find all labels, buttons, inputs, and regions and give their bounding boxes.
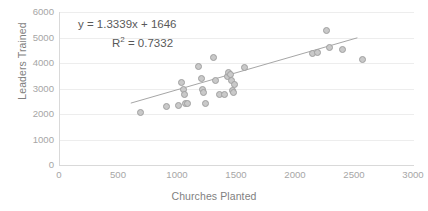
x-axis-tick-labels: 050010001500200025003000 — [0, 170, 428, 186]
data-point — [198, 75, 205, 82]
data-point — [241, 64, 248, 71]
data-point — [163, 103, 170, 110]
scatter-chart: Leaders Trained 010002000300040005000600… — [0, 0, 428, 211]
r-squared-label: R2 = 0.7332 — [72, 34, 252, 53]
regression-equation: y = 1.3339x + 1646 — [72, 16, 252, 34]
x-tick-label: 500 — [92, 170, 144, 180]
x-tick-label: 2000 — [269, 170, 321, 180]
y-tick-label: 3000 — [14, 84, 54, 94]
data-point — [230, 89, 237, 96]
data-point — [326, 44, 333, 51]
x-tick-label: 1500 — [210, 170, 262, 180]
data-point — [221, 91, 228, 98]
y-tick-label: 2000 — [14, 109, 54, 119]
data-point — [184, 100, 191, 107]
regression-annotation: y = 1.3339x + 1646 R2 = 0.7332 — [72, 16, 252, 52]
r-squared-value: = 0.7332 — [125, 37, 173, 49]
data-point — [175, 102, 182, 109]
x-tick-label: 2500 — [328, 170, 380, 180]
data-point — [195, 63, 202, 70]
y-tick-label: 0 — [14, 160, 54, 170]
y-tick-label: 1000 — [14, 135, 54, 145]
data-point — [359, 56, 366, 63]
x-tick-label: 3000 — [387, 170, 428, 180]
x-tick-label: 1000 — [151, 170, 203, 180]
data-point — [181, 91, 188, 98]
data-point — [212, 77, 219, 84]
data-point — [339, 46, 346, 53]
x-tick-label: 0 — [33, 170, 85, 180]
y-tick-label: 6000 — [14, 7, 54, 17]
data-point — [210, 54, 217, 61]
y-tick-label: 4000 — [14, 58, 54, 68]
data-point — [137, 109, 144, 116]
data-point — [202, 100, 209, 107]
y-tick-label: 5000 — [14, 33, 54, 43]
x-axis-title: Churches Planted — [0, 190, 428, 202]
